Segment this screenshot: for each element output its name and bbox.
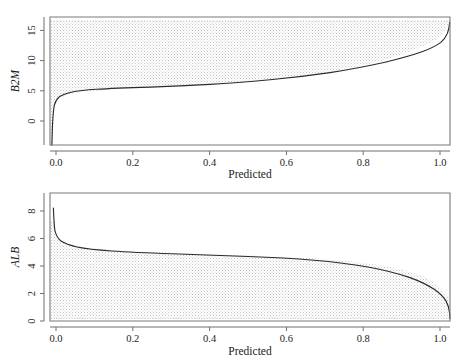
b2m-x-axis: 0.0 0.2 0.4 0.6 0.8 1.0 [49,151,450,168]
alb-x-axis: 0.0 0.2 0.4 0.6 0.8 1.0 [49,327,450,344]
b2m-yaxis-title: B2M [9,68,21,92]
alb-shaded-band [51,222,450,318]
b2m-ytick-0: 0 [26,118,37,123]
b2m-plot-svg: 0.0 0.2 0.4 0.6 0.8 1.0 Predicted 0 5 10… [0,0,465,180]
b2m-xtick-5: 1.0 [433,157,446,168]
alb-xtick-4: 0.8 [357,333,370,344]
b2m-ytick-1: 5 [26,88,37,93]
b2m-xtick-3: 0.6 [280,157,293,168]
alb-xtick-2: 0.4 [203,333,217,344]
alb-ytick-1: 2 [26,291,37,296]
alb-band-group [51,222,450,318]
alb-xtick-0: 0.0 [49,333,62,344]
b2m-xtick-1: 0.2 [126,157,139,168]
b2m-shaded-band [51,21,450,145]
alb-plot-svg: 0.0 0.2 0.4 0.6 0.8 1.0 Predicted 0 2 4 … [0,180,465,360]
alb-ytick-4: 8 [26,208,37,213]
alb-ytick-3: 6 [26,236,37,241]
alb-y-axis: 0 2 4 6 8 [26,193,44,324]
chart-panel-alb: 0.0 0.2 0.4 0.6 0.8 1.0 Predicted 0 2 4 … [0,180,465,360]
alb-xtick-5: 1.0 [433,333,446,344]
alb-xtick-1: 0.2 [126,333,139,344]
alb-ytick-0: 0 [26,318,37,323]
figure-container: 0.0 0.2 0.4 0.6 0.8 1.0 Predicted 0 5 10… [0,0,465,360]
chart-panel-b2m: 0.0 0.2 0.4 0.6 0.8 1.0 Predicted 0 5 10… [0,0,465,180]
b2m-xtick-4: 0.8 [357,157,370,168]
alb-xtick-3: 0.6 [280,333,293,344]
alb-yaxis-title: ALB [9,247,21,268]
alb-ytick-2: 4 [26,263,37,269]
b2m-ytick-2: 10 [26,55,37,66]
b2m-xtick-0: 0.0 [49,157,62,168]
b2m-y-axis: 0 5 10 15 [26,17,44,145]
b2m-xaxis-title: Predicted [228,168,272,180]
alb-xaxis-title: Predicted [228,345,272,357]
b2m-xtick-2: 0.4 [203,157,217,168]
b2m-band-group [51,21,450,145]
b2m-ytick-3: 15 [26,25,37,36]
